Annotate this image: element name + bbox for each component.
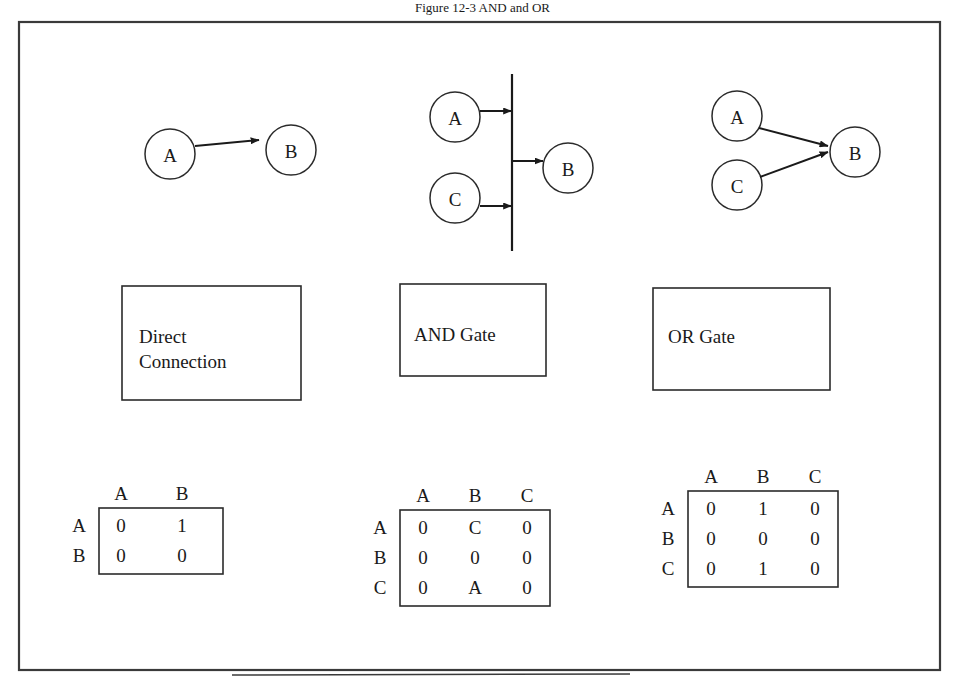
- figure-container: A B A C B A C B Direct Connection AND Ga…: [0, 0, 965, 699]
- matrix-cell: 1: [753, 559, 773, 578]
- matrix-row-header: B: [658, 529, 678, 548]
- node-label-a: A: [445, 109, 465, 128]
- label-text-direct-connection-line2: Connection: [139, 352, 227, 371]
- matrix-cell: 0: [701, 529, 721, 548]
- edge-a-to-b: [759, 128, 828, 146]
- matrix-cell: 0: [805, 529, 825, 548]
- matrix-cell: 0: [413, 578, 433, 597]
- matrix-col-header: C: [805, 467, 825, 486]
- matrix-cell: 0: [172, 546, 192, 565]
- node-label-c: C: [727, 177, 747, 196]
- matrix-col-header: B: [172, 484, 192, 503]
- node-label-c: C: [445, 190, 465, 209]
- matrix-cell: 0: [701, 499, 721, 518]
- matrix-cell: C: [465, 518, 485, 537]
- matrix-row-header: C: [658, 559, 678, 578]
- node-label-b: B: [845, 144, 865, 163]
- matrix-col-header: C: [517, 486, 537, 505]
- matrix-cell: 0: [805, 559, 825, 578]
- edge-a-to-b: [195, 140, 259, 146]
- matrix-cell: 0: [111, 516, 131, 535]
- matrix-row-header: B: [370, 548, 390, 567]
- node-label-b: B: [558, 160, 578, 179]
- matrix-cell: 0: [517, 518, 537, 537]
- edge-c-to-b: [760, 152, 828, 177]
- matrix-cell: 1: [753, 499, 773, 518]
- matrix-cell: 0: [805, 499, 825, 518]
- matrix-cell: 0: [753, 529, 773, 548]
- matrix-row-header: A: [658, 499, 678, 518]
- matrix-cell: 0: [111, 546, 131, 565]
- matrix-col-header: A: [413, 486, 433, 505]
- node-label-a: A: [160, 146, 180, 165]
- matrix-row-header: A: [370, 518, 390, 537]
- matrix-col-header: A: [701, 467, 721, 486]
- matrix-col-header: B: [753, 467, 773, 486]
- matrix-row-header: B: [69, 546, 89, 565]
- matrix-cell: 0: [413, 518, 433, 537]
- matrix-cell: 0: [517, 578, 537, 597]
- matrix-row-header: A: [69, 516, 89, 535]
- matrix-row-header: C: [370, 578, 390, 597]
- label-text-and-gate: AND Gate: [414, 325, 496, 344]
- matrix-cell: 0: [701, 559, 721, 578]
- node-label-b: B: [281, 142, 301, 161]
- matrix-col-header: A: [111, 484, 131, 503]
- matrix-cell: A: [465, 578, 485, 597]
- node-label-a: A: [727, 108, 747, 127]
- matrix-cell: 0: [465, 548, 485, 567]
- label-text-direct-connection-line1: Direct: [139, 327, 186, 346]
- matrix-cell: 0: [517, 548, 537, 567]
- matrix-col-header: B: [465, 486, 485, 505]
- matrix-cell: 0: [413, 548, 433, 567]
- caption-rule: [232, 674, 630, 675]
- label-text-or-gate: OR Gate: [668, 327, 735, 346]
- matrix-cell: 1: [172, 516, 192, 535]
